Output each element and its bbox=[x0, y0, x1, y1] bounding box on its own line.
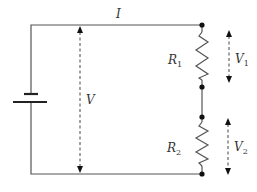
total-voltage-label: V bbox=[86, 93, 96, 107]
junction-node-top bbox=[199, 22, 204, 27]
junction-node-middle bbox=[199, 84, 204, 89]
resistor-r1-icon bbox=[196, 32, 208, 80]
voltage-v2-arrow-icon bbox=[225, 118, 231, 175]
resistor-r1-label: R1 bbox=[167, 53, 182, 69]
resistor-r2-label: R2 bbox=[166, 141, 181, 157]
circuit-diagram: I V R1 R2 V1 V2 bbox=[0, 0, 257, 192]
voltage-v1-label: V1 bbox=[235, 52, 249, 68]
resistor-r2-icon bbox=[196, 122, 208, 166]
current-label: I bbox=[115, 7, 121, 21]
voltage-v1-arrow-icon bbox=[226, 30, 232, 83]
junction-node-lower bbox=[199, 114, 204, 119]
voltage-v-arrow-icon bbox=[77, 26, 83, 173]
bottom-wire bbox=[31, 102, 202, 174]
junction-node-bottom bbox=[199, 171, 204, 176]
voltage-v2-label: V2 bbox=[234, 140, 248, 156]
battery-icon bbox=[13, 94, 47, 102]
